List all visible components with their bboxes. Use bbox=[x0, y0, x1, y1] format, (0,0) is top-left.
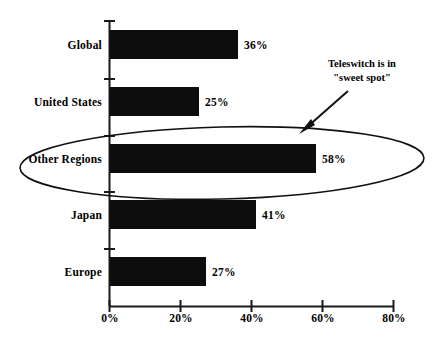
bar-value-europe: 27% bbox=[212, 266, 236, 278]
category-label-europe: Europe bbox=[65, 266, 102, 278]
bar-other-regions bbox=[110, 144, 316, 173]
bar-value-other-regions: 58% bbox=[322, 153, 346, 165]
category-label-united-states: United States bbox=[34, 96, 102, 108]
xtick-label-20: 20% bbox=[169, 312, 193, 324]
xtick-label-0: 0% bbox=[101, 312, 119, 324]
bar-global bbox=[110, 30, 238, 59]
sweet-spot-arrow bbox=[299, 91, 348, 134]
category-label-other-regions: Other Regions bbox=[28, 153, 102, 165]
category-label-japan: Japan bbox=[71, 209, 102, 221]
bar-value-japan: 41% bbox=[262, 209, 286, 221]
bar-value-united-states: 25% bbox=[205, 96, 229, 108]
chart-canvas bbox=[0, 0, 435, 346]
category-label-global: Global bbox=[68, 39, 102, 51]
xtick-label-40: 40% bbox=[240, 312, 264, 324]
bar-chart: Global United States Other Regions Japan… bbox=[0, 0, 435, 346]
xtick-label-80: 80% bbox=[382, 312, 406, 324]
bar-value-global: 36% bbox=[244, 39, 268, 51]
bar-europe bbox=[110, 257, 206, 286]
bar-japan bbox=[110, 200, 256, 229]
bar-united-states bbox=[110, 87, 199, 116]
sweet-spot-annotation-line1: Teleswitch is in bbox=[302, 57, 422, 71]
xtick-label-60: 60% bbox=[311, 312, 335, 324]
sweet-spot-annotation: Teleswitch is in "sweet spot" bbox=[302, 57, 422, 84]
sweet-spot-annotation-line2: "sweet spot" bbox=[302, 71, 422, 85]
